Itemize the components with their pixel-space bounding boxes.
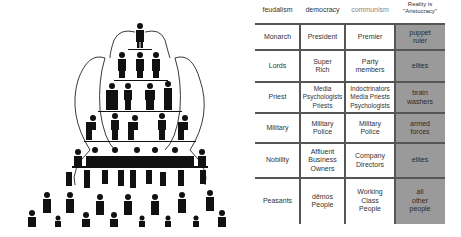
cell-reality: elites <box>395 143 445 178</box>
cell-communism: Premier <box>345 24 395 50</box>
grid-line <box>394 23 396 224</box>
cell-reality: all other people <box>395 178 445 224</box>
cell-communism: Working Class People <box>345 178 395 224</box>
cell-feudalism: Nobility <box>255 143 300 178</box>
header-democracy: democracy <box>300 6 345 13</box>
grid-line <box>255 23 445 25</box>
cell-democracy: Super Rich <box>300 50 345 82</box>
cell-reality: armed forces <box>395 113 445 143</box>
cell-democracy: Media Psychologists Priests <box>300 82 345 113</box>
header-communism: communism <box>345 6 395 13</box>
grid-line <box>255 142 445 144</box>
grid-line <box>255 81 445 83</box>
header-reality: Reality is "Aristocracy" <box>395 1 445 15</box>
cell-reality: brain washers <box>395 82 445 113</box>
cell-feudalism: Priest <box>255 82 300 113</box>
grid-line <box>299 23 301 224</box>
cell-democracy: President <box>300 24 345 50</box>
cell-communism: Company Directors <box>345 143 395 178</box>
cell-reality: elites <box>395 50 445 82</box>
cell-democracy: Affluent Business Owners <box>300 143 345 178</box>
cell-democracy: dēmos People <box>300 178 345 224</box>
cell-feudalism: Monarch <box>255 24 300 50</box>
cell-feudalism: Lords <box>255 50 300 82</box>
social-pyramid-illustration <box>0 0 250 237</box>
cell-communism: Military Police <box>345 113 395 143</box>
cell-communism: Party members <box>345 50 395 82</box>
cell-feudalism: Peasants <box>255 178 300 224</box>
cell-communism: Indoctrinators Media Priests Psychologis… <box>345 82 395 113</box>
cell-reality: puppet ruler <box>395 24 445 50</box>
cell-feudalism: Military <box>255 113 300 143</box>
grid-line <box>255 49 445 51</box>
cell-democracy: Military Police <box>300 113 345 143</box>
grid-line <box>255 177 445 179</box>
grid-line <box>255 112 445 114</box>
grid-line <box>344 23 346 224</box>
comparison-table: feudalism democracy communism Reality is… <box>255 0 445 224</box>
header-feudalism: feudalism <box>255 6 300 13</box>
